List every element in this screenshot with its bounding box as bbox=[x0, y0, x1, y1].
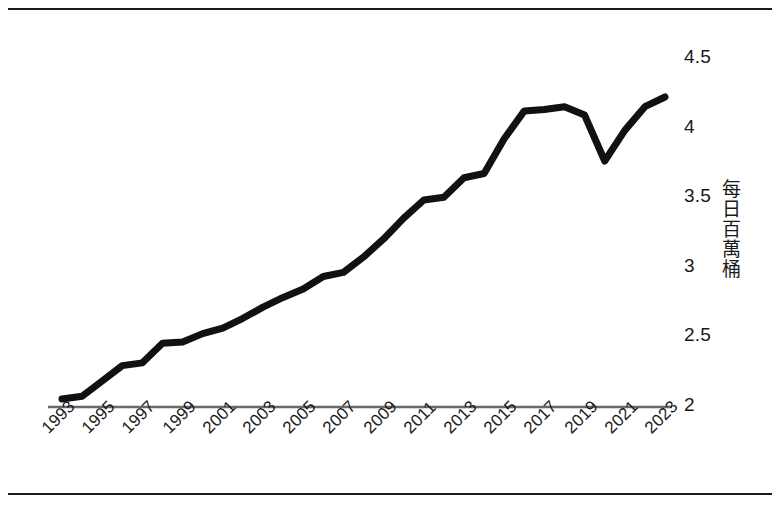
y-tick-label: 3 bbox=[684, 255, 695, 277]
y-tick-label: 4 bbox=[684, 116, 695, 138]
y-tick-label: 2 bbox=[684, 394, 695, 416]
y-tick-label: 2.5 bbox=[684, 324, 711, 346]
y-axis-title: 每日百萬桶 bbox=[718, 180, 744, 280]
data-series-line bbox=[62, 97, 665, 399]
plot-area bbox=[0, 0, 780, 510]
line-chart-svg bbox=[0, 0, 780, 510]
y-tick-label: 4.5 bbox=[684, 46, 711, 68]
y-tick-label: 3.5 bbox=[684, 185, 711, 207]
chart-figure: 22.533.544.5 199319951997199920012003200… bbox=[0, 0, 780, 510]
